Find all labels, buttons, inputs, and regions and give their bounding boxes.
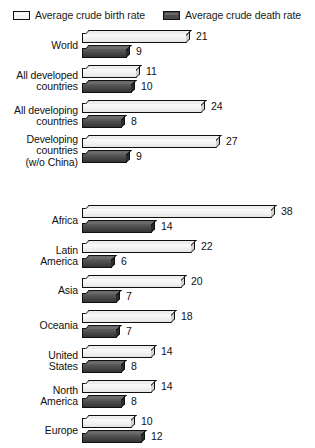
bar-end-cap [136,66,140,78]
bar-top-face [85,45,132,49]
bar-body-death [82,118,122,128]
bar-end-cap [151,346,155,358]
row-bars: 3814 [82,203,315,238]
bar-value-label: 7 [126,291,132,302]
bar-top-face [85,100,207,104]
bar-chart-plot: World219All developed countries1110All d… [0,0,315,448]
chart-row: United States148 [0,343,315,378]
bar-body-birth [82,68,137,78]
category-label: Europe [0,425,78,437]
bar-end-cap [171,311,175,323]
bar-body-death [82,293,117,303]
chart-row: All developing countries248 [0,98,315,133]
bar-body-birth [82,278,182,288]
bar-end-cap [126,151,130,163]
row-bars: 1012 [82,413,315,448]
chart-row: World219 [0,28,315,63]
row-bars: 1110 [82,63,315,98]
bar-value-label: 9 [136,46,142,57]
chart-row: North America148 [0,378,315,413]
chart-row: Developing countries (w/o China)279 [0,133,315,168]
bar-end-cap [131,416,135,428]
bar-body-death [82,398,122,408]
bar-body-death [82,83,132,93]
chart-row: All developed countries1110 [0,63,315,98]
chart-row: Europe1012 [0,413,315,448]
bar-end-cap [201,101,205,113]
bar-value-label: 14 [161,221,173,232]
bar-top-face [85,430,147,434]
bar-end-cap [121,361,125,373]
bar-end-cap [181,276,185,288]
chart-row: Latin America226 [0,238,315,273]
bar-value-label: 20 [191,276,203,287]
bar-value-label: 27 [226,136,238,147]
bar-body-death [82,328,117,338]
bar-body-birth [82,138,217,148]
bar-top-face [85,345,157,349]
bar-top-face [85,80,137,84]
chart-row: Asia207 [0,273,315,308]
bar-value-label: 8 [131,361,137,372]
row-bars: 279 [82,133,315,168]
bar-group-regions: Africa3814Latin America226Asia207Oceania… [0,203,315,448]
bar-body-birth [82,103,202,113]
bar-value-label: 8 [131,116,137,127]
category-label: United States [0,349,78,372]
row-bars: 148 [82,343,315,378]
category-label: North America [0,384,78,407]
bar-end-cap [126,46,130,58]
bar-body-death [82,433,142,443]
bar-body-death [82,223,152,233]
bar-end-cap [121,116,125,128]
bar-top-face [85,380,157,384]
bar-end-cap [131,81,135,93]
bar-end-cap [151,221,155,233]
bar-value-label: 24 [211,101,223,112]
bar-top-face [85,240,197,244]
bar-body-birth [82,243,192,253]
bar-body-death [82,153,127,163]
bar-end-cap [111,256,115,268]
category-label: All developed countries [0,69,78,92]
row-bars: 187 [82,308,315,343]
bar-value-label: 21 [196,31,208,42]
bar-end-cap [121,396,125,408]
bar-value-label: 22 [201,241,213,252]
row-bars: 148 [82,378,315,413]
bar-top-face [85,310,177,314]
bar-end-cap [141,431,145,443]
bar-value-label: 7 [126,326,132,337]
bar-value-label: 38 [281,206,293,217]
bar-value-label: 14 [161,381,173,392]
bar-body-death [82,48,127,58]
category-label: All developing countries [0,104,78,127]
bar-top-face [85,150,132,154]
bar-value-label: 6 [121,256,127,267]
category-label: Developing countries (w/o China) [0,133,78,168]
chart-row: Africa3814 [0,203,315,238]
bar-end-cap [191,241,195,253]
bar-top-face [85,275,187,279]
category-label: Asia [0,285,78,297]
bar-end-cap [271,206,275,218]
chart-row: Oceania187 [0,308,315,343]
bar-value-label: 8 [131,396,137,407]
category-label: Africa [0,215,78,227]
bar-value-label: 18 [181,311,193,322]
bar-value-label: 10 [141,416,153,427]
bar-group-development-groups: World219All developed countries1110All d… [0,28,315,168]
bar-value-label: 12 [151,431,163,442]
bar-top-face [85,415,137,419]
bar-body-birth [82,383,152,393]
row-bars: 207 [82,273,315,308]
bar-body-birth [82,348,152,358]
bar-end-cap [216,136,220,148]
bar-end-cap [186,31,190,43]
bar-value-label: 14 [161,346,173,357]
bar-end-cap [151,381,155,393]
bar-body-birth [82,418,132,428]
bar-top-face [85,65,142,69]
bar-body-birth [82,208,272,218]
category-label: Latin America [0,244,78,267]
